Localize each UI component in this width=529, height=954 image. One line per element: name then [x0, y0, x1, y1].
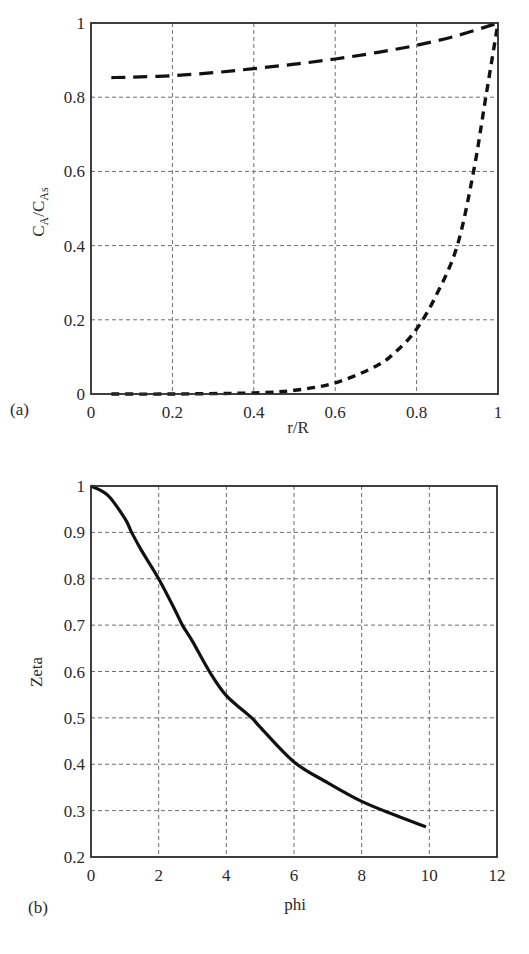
x-tick-label: 0.4 — [243, 403, 265, 422]
x-tick-label: 6 — [290, 866, 299, 885]
grid-lines — [91, 486, 497, 857]
y-tick-label: 0.4 — [64, 755, 86, 774]
y-tick-label: 0.9 — [64, 523, 85, 542]
y-axis-label: Zeta — [27, 656, 46, 687]
plot-frame — [91, 23, 498, 394]
grid-lines — [91, 23, 498, 394]
x-tick-label: 4 — [222, 866, 231, 885]
y-tick-label: 0.2 — [64, 848, 85, 867]
y-tick-label: 0.7 — [64, 616, 86, 635]
y-tick-label: 0.4 — [64, 237, 86, 256]
y-tick-label: 0.2 — [64, 311, 85, 330]
panel-label: (b) — [28, 898, 48, 917]
x-tick-label: 1 — [494, 403, 503, 422]
figure: 00.20.40.60.81 00.20.40.60.81 r/R (a) CA… — [0, 0, 529, 954]
y-axis-label: CA/CAs — [29, 187, 51, 237]
y-tick-label: 0.8 — [64, 88, 85, 107]
x-tick-label: 12 — [489, 866, 506, 885]
y-tick-labels: 0.20.30.40.50.60.70.80.91 — [64, 477, 86, 867]
chart-panel-a: 00.20.40.60.81 00.20.40.60.81 r/R (a) CA… — [10, 14, 502, 437]
x-tick-label: 0.2 — [162, 403, 183, 422]
x-tick-label: 8 — [357, 866, 366, 885]
data-curves — [111, 23, 498, 394]
y-tick-label: 0.3 — [64, 802, 85, 821]
data-series-line — [111, 23, 498, 394]
data-curves — [91, 486, 426, 827]
y-tick-label: 0 — [77, 385, 86, 404]
y-tick-label: 0.6 — [64, 162, 85, 181]
y-tick-label: 0.8 — [64, 570, 85, 589]
x-tick-label: 0.6 — [325, 403, 346, 422]
panel-label: (a) — [10, 400, 29, 419]
x-tick-label: 2 — [154, 866, 163, 885]
x-tick-label: 0 — [87, 403, 96, 422]
data-series-line — [111, 23, 498, 78]
y-tick-label: 1 — [77, 477, 86, 496]
y-tick-label: 0.5 — [64, 709, 85, 728]
data-series-line — [91, 486, 426, 827]
y-tick-labels: 00.20.40.60.81 — [64, 14, 86, 404]
x-tick-label: 0 — [87, 866, 96, 885]
x-axis-label: r/R — [287, 418, 309, 437]
x-tick-label: 10 — [421, 866, 438, 885]
svg-text:CA/CAs: CA/CAs — [29, 187, 51, 237]
x-tick-labels: 024681012 — [87, 866, 506, 885]
chart-panel-b: 024681012 0.20.30.40.50.60.70.80.91 phi … — [27, 477, 506, 917]
x-axis-label: phi — [284, 895, 306, 914]
y-tick-label: 0.6 — [64, 663, 85, 682]
y-tick-label: 1 — [77, 14, 86, 33]
x-tick-label: 0.8 — [406, 403, 427, 422]
